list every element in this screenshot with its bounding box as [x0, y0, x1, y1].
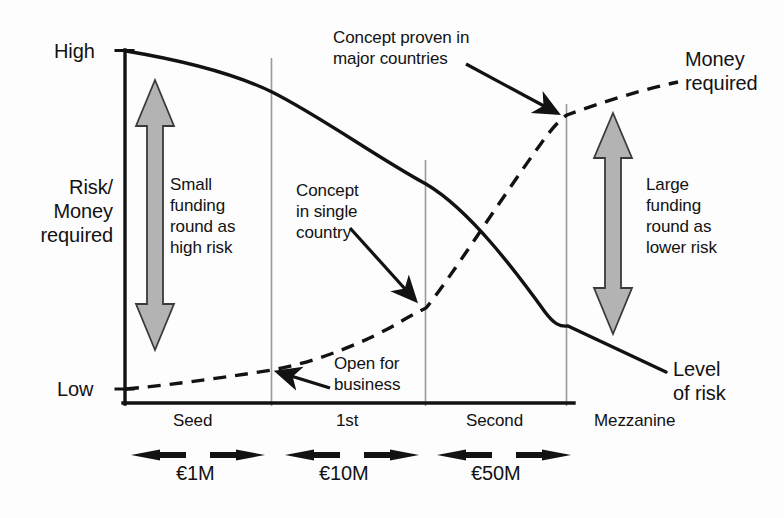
callout-single-country-line1: Concept [296, 181, 359, 201]
callout-arrow-open-for-business [278, 372, 330, 388]
series-label-money-required-line2: required [685, 72, 758, 96]
note-large-funding-line4: lower risk [646, 238, 717, 258]
callout-single-country-line2: in single [296, 202, 357, 222]
note-small-funding-line3: round as [170, 217, 235, 237]
first-span-arrows [285, 450, 419, 461]
callout-open-for-business-line1: Open for [334, 354, 399, 374]
second-span-arrow-right [516, 450, 571, 461]
y-axis-high-label: High [54, 40, 95, 64]
seed-span-arrows [131, 450, 265, 461]
funding-amount-seed: €1M [176, 462, 215, 486]
seed-span-arrow-left [131, 450, 186, 461]
note-large-funding-line1: Large [646, 175, 689, 195]
second-span-arrow-left [437, 450, 492, 461]
y-axis-title-line3: required [13, 224, 113, 248]
y-axis-low-label: Low [57, 378, 93, 402]
seed-span-arrow-right [210, 450, 265, 461]
stage-label-1st: 1st [336, 411, 358, 431]
callout-single-country-line3: country [296, 223, 351, 243]
second-span-arrows [437, 450, 571, 461]
callout-arrow-proven [466, 64, 557, 113]
funding-amount-first: €10M [319, 462, 369, 486]
stage-label-seed: Seed [173, 411, 212, 431]
funding-amount-second: €50M [471, 462, 521, 486]
stage-label-second: Second [466, 411, 523, 431]
series-label-level-of-risk-line2: of risk [673, 382, 726, 406]
stage-label-mezzanine: Mezzanine [594, 411, 675, 431]
y-axis-title-line1: Risk/ [13, 176, 113, 200]
first-span-arrow-left [285, 450, 340, 461]
note-small-funding-line2: funding [170, 196, 225, 216]
mezzanine-funding-double-arrow [594, 113, 632, 334]
note-small-funding-line1: Small [170, 175, 212, 195]
seed-funding-double-arrow [136, 80, 174, 350]
note-large-funding-line3: round as [646, 217, 711, 237]
series-label-level-of-risk-line1: Level [673, 358, 720, 382]
first-span-arrow-right [364, 450, 419, 461]
note-large-funding-line2: funding [646, 196, 701, 216]
callout-proven-line2: major countries [333, 49, 448, 69]
note-small-funding-line4: high risk [170, 238, 232, 258]
callout-arrow-single-country [350, 228, 415, 300]
y-axis-title-line2: Money [13, 200, 113, 224]
callout-proven-line1: Concept proven in [333, 28, 469, 48]
callout-open-for-business-line2: business [334, 375, 400, 395]
series-label-money-required-line1: Money [685, 48, 745, 72]
chart-canvas [0, 0, 784, 518]
funding-stages-chart: High Low Risk/ Money required Seed 1st S… [0, 0, 784, 518]
